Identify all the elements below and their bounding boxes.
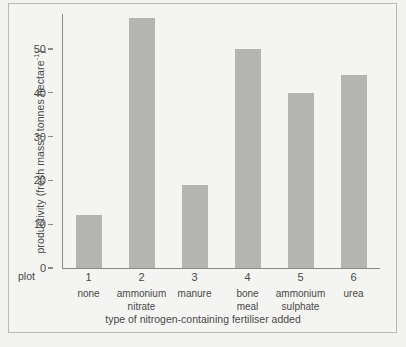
y-tick-label: 20 (6, 174, 46, 186)
bar (341, 75, 367, 268)
bar (182, 185, 208, 268)
figure-container: productivity (fresh mass / tonnes hectar… (0, 0, 406, 347)
x-tick-category-line: nitrate (106, 301, 178, 314)
y-tick-mark (48, 136, 53, 137)
x-tick-category-label: urea (318, 288, 390, 301)
x-axis-category: 6urea (318, 270, 390, 301)
x-axis-title: type of nitrogen-containing fertiliser a… (0, 313, 406, 325)
y-tick-mark (48, 267, 53, 268)
bar (129, 18, 155, 268)
y-axis-title: productivity (fresh mass / tonnes hectar… (32, 27, 46, 277)
y-tick-label: 30 (6, 131, 46, 143)
y-tick-mark (48, 92, 53, 93)
y-tick-label: 50 (6, 43, 46, 55)
y-tick-mark (48, 224, 53, 225)
x-tick-category-line: sulphate (265, 301, 337, 314)
y-axis-line (62, 14, 63, 268)
bar (288, 93, 314, 268)
y-tick-mark (48, 48, 53, 49)
y-tick-label: 10 (6, 218, 46, 230)
y-tick-mark (48, 180, 53, 181)
y-axis-ticks: 01020304050 (53, 14, 62, 268)
x-tick-plot-number: 6 (318, 270, 390, 284)
bar (76, 215, 102, 268)
x-tick-category-line: urea (318, 288, 390, 301)
plot-row-label: plot (18, 270, 35, 282)
bar (235, 49, 261, 268)
plot-area: 01020304050 (62, 14, 380, 268)
y-tick-label: 40 (6, 87, 46, 99)
